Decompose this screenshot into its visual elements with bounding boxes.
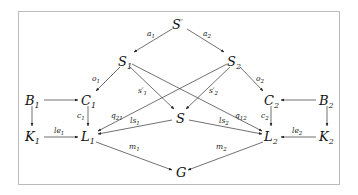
node-s: S xyxy=(176,111,185,126)
label-c1: c1 xyxy=(77,111,85,121)
label-m1: m1 xyxy=(129,142,140,152)
label-a2: a2 xyxy=(203,29,211,39)
edges xyxy=(32,29,327,170)
node-s1: S1 xyxy=(118,54,132,71)
node-g: G xyxy=(176,165,186,180)
node-c1: C1 xyxy=(81,93,96,110)
label-o2: o2 xyxy=(256,74,265,84)
label-le1: le1 xyxy=(54,126,64,136)
diagram-canvas: S′ S1 S2 B1 C1 C2 B2 S K1 L1 L2 K2 G a1 … xyxy=(0,0,358,195)
label-le2: le2 xyxy=(292,126,303,136)
label-ls2: ls2 xyxy=(219,116,229,126)
node-b1: B1 xyxy=(24,93,40,110)
node-b2: B2 xyxy=(318,93,334,110)
node-l2: L2 xyxy=(263,129,278,146)
label-s1-prime: s′1 xyxy=(138,86,147,96)
node-k2: K2 xyxy=(318,129,334,146)
edge-s2-s xyxy=(186,67,230,109)
label-ls1: ls1 xyxy=(130,116,140,126)
label-o1: o1 xyxy=(92,74,100,84)
label-q12: q12 xyxy=(235,111,247,121)
nodes: S′ S1 S2 B1 C1 C2 B2 S K1 L1 L2 K2 G xyxy=(24,17,334,180)
node-s2: S2 xyxy=(227,54,241,71)
label-c2: c2 xyxy=(261,111,269,121)
label-s2-prime: s′2 xyxy=(209,86,219,96)
label-a1: a1 xyxy=(147,29,155,39)
node-l1: L1 xyxy=(80,129,95,146)
node-k1: K1 xyxy=(24,129,40,146)
node-s-prime: S′ xyxy=(172,17,183,32)
diagram-frame xyxy=(19,12,340,185)
label-q21: q21 xyxy=(111,111,123,121)
label-m2: m2 xyxy=(216,142,227,152)
node-c2: C2 xyxy=(264,93,279,110)
